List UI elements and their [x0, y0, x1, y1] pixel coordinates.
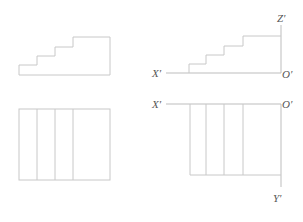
origin-label-bottom: O′	[282, 98, 293, 110]
origin-label-top: O′	[282, 68, 293, 80]
projection-diagram: Z′ X′ O′ X′ O′ Y′	[0, 0, 303, 222]
y-axis-label: Y′	[273, 192, 282, 204]
x-axis-label-bottom: X′	[151, 98, 162, 110]
left-top-view	[19, 109, 110, 180]
left-staircase-outline	[19, 37, 110, 75]
right-staircase-outline	[189, 36, 281, 73]
right-top-view	[166, 104, 281, 187]
x-axis-label-top: X′	[151, 67, 162, 79]
z-axis-label: Z′	[277, 12, 286, 24]
right-front-view	[166, 25, 281, 73]
